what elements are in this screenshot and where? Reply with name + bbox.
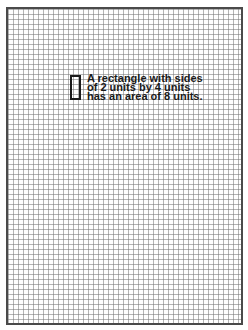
caption-line-3: has an area of 8 units. xyxy=(87,92,203,101)
graph-paper-grid xyxy=(6,7,243,325)
rectangle-caption: A rectangle with sides of 2 units by 4 u… xyxy=(87,74,203,101)
example-rectangle xyxy=(70,75,81,100)
